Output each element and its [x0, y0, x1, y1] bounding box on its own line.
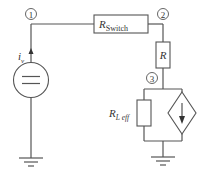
- node-2-label: 2: [161, 10, 166, 20]
- node-3-label: 3: [150, 74, 155, 84]
- dependent-current-source: [168, 92, 196, 134]
- node-1-marker: 1: [26, 9, 37, 20]
- ground-right-icon: [151, 157, 175, 165]
- current-source: [14, 63, 49, 98]
- node-2-marker: 2: [158, 9, 169, 20]
- current-source-label: iv: [18, 50, 25, 65]
- r-leff-label: RL eff: [108, 107, 130, 122]
- r-label: R: [159, 49, 167, 61]
- circuit-diagram: 1 2 3 iv RSwitch R RL eff: [0, 0, 206, 177]
- current-arrow-icon: [29, 48, 34, 54]
- node-3-marker: 3: [147, 73, 158, 84]
- node-1-label: 1: [29, 10, 34, 20]
- r-leff-resistor: [137, 100, 151, 126]
- ground-left-icon: [19, 158, 43, 166]
